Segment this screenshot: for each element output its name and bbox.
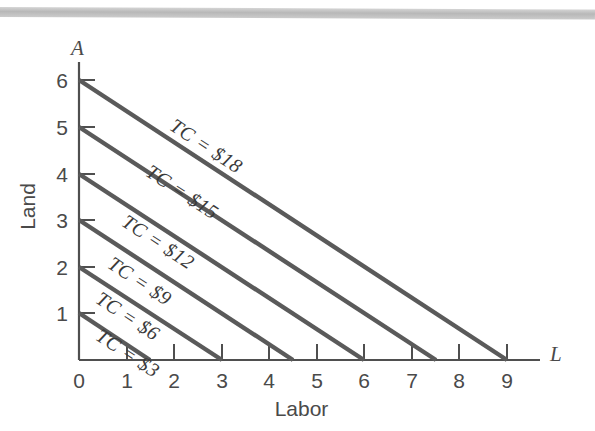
x-tick-label-9: 9	[490, 370, 524, 391]
y-tick-label-6: 6	[46, 70, 68, 91]
y-axis-symbol: A	[71, 38, 84, 59]
x-tick-label-6: 6	[347, 370, 381, 391]
x-axis-ticks	[127, 344, 507, 360]
y-tick-label-2: 2	[46, 257, 68, 278]
x-axis-title: Labor	[0, 398, 595, 419]
x-tick-label-3: 3	[205, 370, 239, 391]
x-tick-label-2: 2	[157, 370, 191, 391]
x-tick-label-7: 7	[395, 370, 429, 391]
x-tick-label-0: 0	[62, 370, 96, 391]
isocost-figure: A L Labor Land 0 1 2 3 4 5 6 7 8 9 1 2 3…	[0, 0, 595, 431]
y-tick-label-1: 1	[46, 303, 68, 324]
y-tick-label-5: 5	[46, 117, 68, 138]
y-tick-label-3: 3	[46, 210, 68, 231]
x-axis-symbol: L	[550, 344, 562, 365]
plot-canvas	[0, 0, 595, 431]
x-tick-label-8: 8	[442, 370, 476, 391]
y-tick-label-4: 4	[46, 164, 68, 185]
x-tick-label-5: 5	[300, 370, 334, 391]
y-axis-title: Land	[17, 167, 38, 247]
x-tick-label-4: 4	[252, 370, 286, 391]
